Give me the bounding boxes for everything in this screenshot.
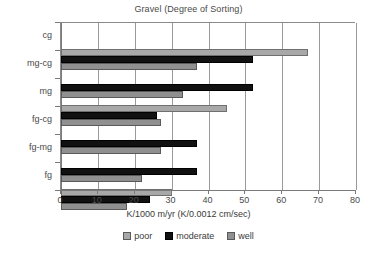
- x-tick-mark: [355, 190, 356, 194]
- y-tick-mark: [55, 134, 60, 135]
- y-tick-mark: [55, 22, 60, 23]
- y-tick-mark: [55, 50, 60, 51]
- x-tick-label: 50: [229, 195, 259, 205]
- legend-item-well[interactable]: well: [227, 231, 254, 241]
- x-tick-mark: [208, 190, 209, 194]
- y-category-label: fg: [0, 170, 52, 180]
- y-tick-mark: [55, 190, 60, 191]
- bar-mg-cg-well: [61, 91, 183, 98]
- legend-label: well: [238, 231, 254, 241]
- chart-container: Gravel (Degree of Sorting) K/1000 m/yr (…: [0, 0, 377, 257]
- legend-label: moderate: [176, 231, 214, 241]
- bar-mg-poor: [61, 105, 227, 112]
- plot-area: [60, 22, 355, 190]
- bar-fg-cg-well: [61, 147, 161, 154]
- x-tick-mark: [97, 190, 98, 194]
- y-category-label: fg-cg: [0, 114, 52, 124]
- x-tick-label: 20: [119, 195, 149, 205]
- x-tick-label: 10: [82, 195, 112, 205]
- bar-cg-well: [61, 63, 197, 70]
- x-tick-label: 80: [340, 195, 370, 205]
- chart-title: Gravel (Degree of Sorting): [0, 4, 377, 14]
- bar-cg-poor: [61, 49, 308, 56]
- x-tick-mark: [171, 190, 172, 194]
- x-tick-mark: [60, 190, 61, 194]
- y-tick-mark: [55, 106, 60, 107]
- bar-mg-cg-moderate: [61, 84, 253, 91]
- x-gridline: [319, 23, 320, 190]
- chart-legend: poormoderatewell: [0, 231, 377, 241]
- bar-fg-mg-well: [61, 175, 142, 182]
- legend-item-poor[interactable]: poor: [123, 231, 152, 241]
- x-tick-mark: [318, 190, 319, 194]
- legend-swatch-icon: [123, 232, 131, 240]
- y-category-label: fg-mg: [0, 142, 52, 152]
- x-tick-label: 70: [303, 195, 333, 205]
- legend-item-moderate[interactable]: moderate: [165, 231, 214, 241]
- y-category-label: cg: [0, 30, 52, 40]
- x-tick-label: 0: [45, 195, 75, 205]
- bar-fg-cg-moderate: [61, 140, 197, 147]
- y-tick-mark: [55, 162, 60, 163]
- y-tick-mark: [55, 78, 60, 79]
- legend-label: poor: [134, 231, 152, 241]
- legend-swatch-icon: [165, 232, 173, 240]
- bar-mg-well: [61, 119, 161, 126]
- x-tick-label: 60: [266, 195, 296, 205]
- y-category-label: mg: [0, 86, 52, 96]
- legend-swatch-icon: [227, 232, 235, 240]
- bar-cg-moderate: [61, 56, 253, 63]
- y-category-label: mg-cg: [0, 58, 52, 68]
- x-tick-label: 30: [156, 195, 186, 205]
- x-tick-mark: [134, 190, 135, 194]
- x-tick-mark: [244, 190, 245, 194]
- x-tick-label: 40: [193, 195, 223, 205]
- x-tick-mark: [281, 190, 282, 194]
- bar-fg-mg-moderate: [61, 168, 197, 175]
- bar-mg-moderate: [61, 112, 157, 119]
- x-axis-title: K/1000 m/yr (K/0.0012 cm/sec): [0, 209, 377, 219]
- x-gridline: [356, 23, 357, 190]
